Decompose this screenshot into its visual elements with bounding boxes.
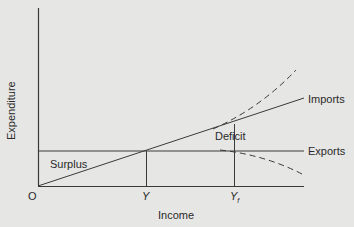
yf-sub: f <box>237 197 239 204</box>
deficit-label: Deficit <box>215 130 246 142</box>
diagram: Expenditure O Y Yf Income Surplus Defici… <box>0 0 354 227</box>
diagram-plot <box>0 0 354 227</box>
surplus-label: Surplus <box>50 158 87 170</box>
yf-tick-label: Yf <box>230 190 239 204</box>
imports-shifted-dashed <box>213 70 296 129</box>
imports-line <box>38 98 304 186</box>
exports-shifted-dashed <box>220 150 302 174</box>
x-axis-label: Income <box>158 209 194 221</box>
imports-label: Imports <box>308 93 345 105</box>
origin-label: O <box>28 190 37 202</box>
y-axis-label: Expenditure <box>5 81 17 140</box>
y-tick-label: Y <box>142 190 149 202</box>
exports-label: Exports <box>308 145 345 157</box>
